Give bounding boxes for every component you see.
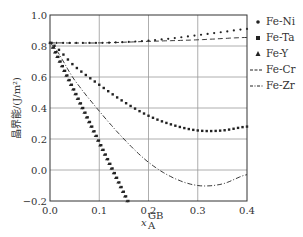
y-tick-label: 1.0 [31, 10, 47, 21]
svg-text:x: x [141, 217, 147, 228]
x-tick-label: 0.1 [91, 205, 107, 216]
legend-label: Fe-Ta [266, 31, 295, 43]
legend-label: Fe-Cr [266, 63, 297, 75]
y-tick-label: 0.8 [31, 41, 47, 52]
x-tick-label: 0.0 [42, 205, 58, 216]
legend-item-fe-ta: Fe-Ta [256, 31, 295, 43]
legend-item-fe-ni: Fe-Ni [256, 15, 295, 27]
x-tick-label: 0.3 [190, 205, 206, 216]
square-marker-icon [256, 36, 260, 40]
y-axis-ticks: 1.00.80.60.40.20.0−0.2 [23, 10, 47, 207]
y-tick-label: 0.4 [31, 103, 47, 114]
y-tick-label: 0.0 [31, 165, 47, 176]
legend-item-fe-y: Fe-Y [256, 47, 290, 59]
svg-text:GB: GB [148, 210, 163, 221]
legend-label: Fe-Zr [266, 79, 296, 91]
legend-item-fe-cr: Fe-Cr [250, 63, 297, 75]
triangle-marker-icon [256, 51, 261, 56]
svg-text:A: A [147, 220, 156, 231]
legend: Fe-NiFe-TaFe-YFe-CrFe-Zr [250, 15, 297, 91]
y-axis-label: 晶界能/(J/m²) [10, 77, 22, 139]
legend-label: Fe-Ni [266, 15, 296, 27]
grid-lines [50, 15, 247, 201]
x-tick-label: 0.4 [239, 205, 255, 216]
circle-marker-icon [256, 20, 260, 24]
legend-item-fe-zr: Fe-Zr [250, 79, 296, 91]
y-tick-label: 0.2 [31, 134, 47, 145]
legend-label: Fe-Y [266, 47, 289, 59]
y-tick-label: 0.6 [31, 72, 47, 83]
grain-boundary-energy-chart: 1.00.80.60.40.20.0−0.2 0.00.10.20.30.4 晶… [0, 0, 303, 237]
series-fe-y [49, 41, 130, 202]
